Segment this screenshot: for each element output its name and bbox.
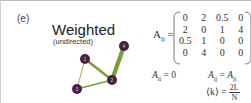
diagonal-equation: Aii = 0: [152, 70, 176, 82]
matrix-row-2: 2014: [176, 24, 250, 36]
matrix-row-1: 020.50: [176, 12, 250, 24]
symmetry-equation: Aij = Aji: [208, 70, 236, 82]
adjacency-matrix: 020.50 2014 0.5100 0400: [176, 12, 250, 58]
average-degree-equation: ⟨k⟩ = 2LN: [206, 83, 240, 102]
matrix-row-3: 0.5100: [176, 35, 250, 47]
matrix-row-4: 0400: [176, 47, 250, 59]
